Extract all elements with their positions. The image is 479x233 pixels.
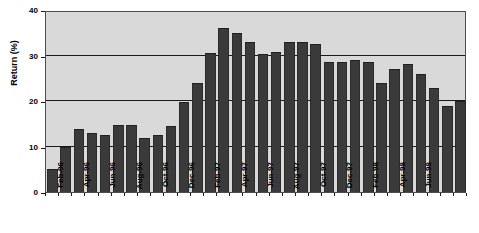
x-tick-mark bbox=[413, 193, 414, 196]
x-tick-mark bbox=[98, 193, 99, 196]
bar bbox=[455, 101, 466, 192]
y-tick-label: 20 bbox=[0, 98, 38, 106]
x-tick-mark bbox=[177, 193, 178, 196]
x-tick-mark bbox=[150, 193, 151, 196]
x-tick-label: Aug-96 bbox=[135, 162, 145, 198]
x-tick-label: Oct-96 bbox=[161, 162, 171, 198]
x-tick-mark bbox=[308, 193, 309, 196]
x-tick-label: Apr-97 bbox=[240, 162, 250, 198]
x-tick-mark bbox=[466, 193, 467, 196]
x-tick-label: Jun-96 bbox=[108, 162, 118, 198]
x-tick-label: Dec-97 bbox=[345, 162, 355, 198]
x-tick-label: Feb-98 bbox=[371, 162, 381, 198]
x-tick-mark bbox=[71, 193, 72, 196]
x-tick-mark bbox=[334, 193, 335, 196]
y-tick-label: 0 bbox=[0, 189, 38, 197]
bar bbox=[442, 106, 453, 192]
x-tick-label-text: Oct-97 bbox=[319, 162, 329, 198]
x-tick-mark bbox=[453, 193, 454, 196]
x-tick-label: Feb-97 bbox=[213, 162, 223, 198]
x-tick-label: Jun-97 bbox=[266, 162, 276, 198]
x-tick-mark bbox=[440, 193, 441, 196]
x-tick-label-text: Oct-96 bbox=[161, 162, 171, 198]
x-tick-label-text: Jun-97 bbox=[266, 162, 276, 198]
x-tick-mark bbox=[203, 193, 204, 196]
x-tick-mark bbox=[45, 193, 46, 196]
x-tick-label-text: Dec-96 bbox=[187, 162, 197, 198]
x-tick-label-text: Jun-96 bbox=[108, 162, 118, 198]
x-tick-label: Feb-96 bbox=[56, 162, 66, 198]
x-tick-label-text: Feb-96 bbox=[56, 162, 66, 198]
x-axis-tick-labels: Feb-96Apr-96Jun-96Aug-96Oct-96Dec-96Feb-… bbox=[45, 193, 466, 233]
x-tick-mark bbox=[229, 193, 230, 196]
x-tick-label-text: Apr-98 bbox=[398, 162, 408, 198]
x-tick-label-text: Aug-96 bbox=[135, 162, 145, 198]
x-tick-label-text: Dec-97 bbox=[345, 162, 355, 198]
y-tick-label: 40 bbox=[0, 7, 38, 15]
x-tick-label-text: Apr-97 bbox=[240, 162, 250, 198]
x-tick-mark bbox=[256, 193, 257, 196]
x-tick-label: Apr-96 bbox=[82, 162, 92, 198]
x-tick-mark bbox=[387, 193, 388, 196]
y-tick-label: 30 bbox=[0, 53, 38, 61]
x-tick-mark bbox=[282, 193, 283, 196]
x-tick-label: Oct-97 bbox=[319, 162, 329, 198]
x-tick-label-text: Feb-98 bbox=[371, 162, 381, 198]
x-tick-label-text: Feb-97 bbox=[213, 162, 223, 198]
x-tick-label: Jun-98 bbox=[424, 162, 434, 198]
y-tick-label: 10 bbox=[0, 144, 38, 152]
x-tick-label: Aug-97 bbox=[292, 162, 302, 198]
x-tick-label-text: Jun-98 bbox=[424, 162, 434, 198]
x-tick-mark bbox=[124, 193, 125, 196]
x-tick-label: Apr-98 bbox=[398, 162, 408, 198]
x-tick-label-text: Aug-97 bbox=[292, 162, 302, 198]
x-tick-label: Dec-96 bbox=[187, 162, 197, 198]
x-tick-label-text: Apr-96 bbox=[82, 162, 92, 198]
bar-chart: Return (%) 010203040 Feb-96Apr-96Jun-96A… bbox=[0, 0, 479, 233]
x-tick-mark bbox=[361, 193, 362, 196]
